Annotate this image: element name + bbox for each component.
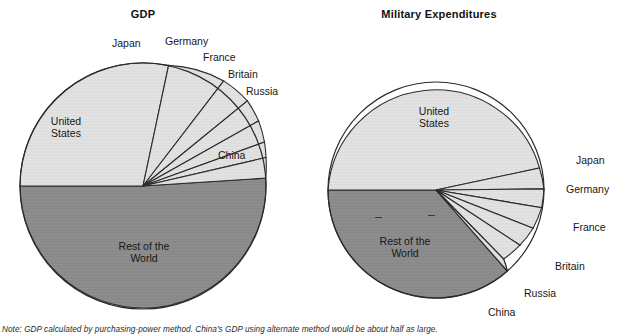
- military-label-russia: Russia: [524, 288, 556, 300]
- artifact-dash-left: [375, 217, 382, 218]
- artifact-dash-right: [428, 215, 435, 216]
- military-label-germany: Germany: [566, 184, 609, 196]
- military-label-us-line2: States: [396, 117, 472, 129]
- gdp-label-japan: Japan: [112, 38, 141, 50]
- gdp-label-us-line1: United: [28, 115, 104, 127]
- gdp-label-united-states: United States: [28, 115, 104, 139]
- gdp-label-us-line2: States: [28, 127, 104, 139]
- gdp-pie: [20, 63, 266, 309]
- gdp-label-france: France: [203, 52, 236, 64]
- military-label-us-line1: United: [396, 105, 472, 117]
- gdp-label-germany: Germany: [165, 36, 208, 48]
- gdp-label-russia: Russia: [246, 86, 278, 98]
- military-label-japan: Japan: [576, 155, 605, 167]
- pie-charts-canvas: [0, 0, 618, 336]
- figure-note: Note: GDP calculated by purchasing-power…: [2, 325, 438, 334]
- gdp-label-china: China: [218, 150, 245, 162]
- gdp-label-rest-of-world: Rest of the World: [98, 240, 190, 264]
- military-label-rest-of-world: Rest of the World: [359, 235, 451, 259]
- gdp-label-britain: Britain: [228, 69, 258, 81]
- military-label-france: France: [573, 222, 606, 234]
- military-label-row-line1: Rest of the: [359, 235, 451, 247]
- figure-root: GDP Military Expenditures: [0, 0, 618, 336]
- gdp-label-row-line1: Rest of the: [98, 240, 190, 252]
- military-label-united-states: United States: [396, 105, 472, 129]
- military-label-china: China: [488, 307, 515, 319]
- military-label-row-line2: World: [359, 247, 451, 259]
- military-label-britain: Britain: [555, 261, 585, 273]
- gdp-label-row-line2: World: [98, 252, 190, 264]
